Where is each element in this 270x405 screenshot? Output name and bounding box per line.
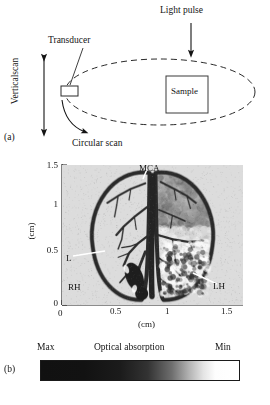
schematic-drawing <box>0 0 270 158</box>
figure-root: Light pulse Transducer Sample Circular s… <box>0 0 270 405</box>
panel-a-label: (a) <box>4 133 15 143</box>
transducer-box <box>61 86 78 96</box>
y-tick-0: 0 <box>44 298 58 308</box>
annotation-lh: LH <box>213 281 225 291</box>
l-leader-line <box>73 251 105 256</box>
annotation-l: L <box>66 253 72 263</box>
colorbar-min-label: Min <box>215 342 231 352</box>
y-tick-1: 1 <box>38 199 58 209</box>
x-tick-0-5: 0.5 <box>110 306 121 316</box>
annotation-mca: MCA <box>139 163 160 173</box>
x-tick-1: 1 <box>165 306 170 316</box>
colorbar-max-label: Max <box>37 342 54 352</box>
panel-b-label: (b) <box>4 364 15 374</box>
y-tick-0-5: 0.5 <box>34 245 58 255</box>
colorbar-gradient <box>40 360 240 381</box>
x-tick-0: 0 <box>58 308 63 318</box>
colorbar-block: Max Optical absorption Min (b) <box>0 340 270 400</box>
y-tick-1-5: 1.5 <box>38 160 58 170</box>
panel-b-image: MCA L RH LH 1.5 1 0.5 0 0 0.5 1 1.5 (cm)… <box>0 158 270 405</box>
x-axis-title: (cm) <box>138 319 155 329</box>
y-axis-title: (cm) <box>26 223 36 240</box>
vertical-scan-label: Verticalscan <box>11 58 21 104</box>
circular-scan-label: Circular scan <box>72 139 122 149</box>
circular-scan-ellipse <box>65 59 255 125</box>
circular-scan-arrow <box>62 100 85 132</box>
transducer-label: Transducer <box>48 36 90 46</box>
colorbar-title: Optical absorption <box>94 342 164 352</box>
transducer-leader-line <box>70 48 83 85</box>
panel-a-schematic: Light pulse Transducer Sample Circular s… <box>0 0 270 158</box>
sample-label: Sample <box>171 87 198 96</box>
light-pulse-label: Light pulse <box>160 6 203 16</box>
x-tick-1-5: 1.5 <box>221 306 232 316</box>
annotation-rh: RH <box>68 282 81 292</box>
